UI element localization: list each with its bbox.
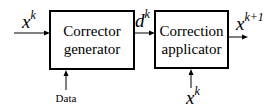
block-diagram: xk Corrector generator Data dk Correctio… bbox=[0, 0, 279, 109]
intermediate-signal-label: dk bbox=[135, 7, 151, 31]
corrector-generator-line2: generator bbox=[64, 41, 121, 57]
intermediate-arrow bbox=[134, 31, 155, 36]
correction-applicator-line1: Correction bbox=[159, 23, 224, 39]
correction-applicator-block: Correction applicator bbox=[155, 11, 228, 68]
data-label: Data bbox=[56, 92, 77, 104]
input-arrow bbox=[14, 31, 50, 36]
side-input-arrow bbox=[189, 69, 194, 88]
corrector-generator-block: Corrector generator bbox=[50, 11, 134, 69]
output-arrow bbox=[228, 35, 248, 40]
data-arrow bbox=[64, 70, 69, 90]
output-signal-label: xk+1 bbox=[235, 10, 264, 34]
input-signal-label: xk bbox=[21, 8, 36, 32]
side-input-signal-label: xk bbox=[185, 84, 200, 108]
corrector-generator-line1: Corrector bbox=[63, 23, 120, 39]
correction-applicator-line2: applicator bbox=[162, 41, 222, 57]
